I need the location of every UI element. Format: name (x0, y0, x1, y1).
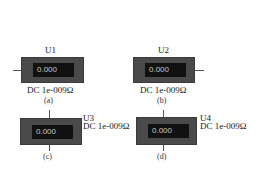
meter-u3-top-terminal (49, 110, 50, 118)
meter-u3-display: 0.000 (32, 125, 73, 139)
meter-u4-spec: DC 1e-009Ω (200, 122, 246, 131)
caption-a: (a) (44, 97, 53, 105)
meter-u2-spec: DC 1e-009Ω (140, 86, 186, 95)
meter-u1-spec: DC 1e-009Ω (27, 86, 73, 95)
meter-u2-right-terminal (195, 70, 204, 71)
meter-u2-body[interactable]: 0.000 (133, 57, 195, 83)
meter-u4-body[interactable]: 0.000 (136, 117, 197, 145)
meter-u2-display: 0.000 (145, 63, 186, 77)
meter-u4-bottom-terminal (163, 145, 164, 151)
meter-u3-bottom-terminal (49, 145, 50, 151)
meter-u2-label: U2 (158, 46, 169, 55)
caption-c: (c) (43, 153, 52, 161)
meter-u4-top-terminal (163, 110, 164, 117)
meter-u3-spec: DC 1e-009Ω (83, 122, 129, 131)
caption-d: (d) (157, 153, 166, 161)
meter-u1-body[interactable]: 0.000 (21, 57, 84, 83)
caption-b: (b) (157, 97, 166, 105)
meter-u1-label: U1 (45, 46, 56, 55)
meter-u1-display: 0.000 (33, 63, 74, 77)
meter-u3-body[interactable]: 0.000 (20, 118, 82, 145)
meter-u4-display: 0.000 (148, 124, 189, 138)
